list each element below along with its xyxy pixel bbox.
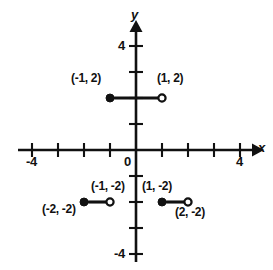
coordinate-plane-graph: x y -4 0 4 4 -4 (-1, 2) (1, 2) (-2, -2) …	[0, 0, 273, 270]
y-axis-label: y	[131, 8, 138, 21]
origin-label: 0	[124, 155, 131, 168]
plot-area	[0, 0, 273, 270]
segment-upper-closed-endpoint	[106, 94, 114, 102]
point-label-upper-right: (1, 2)	[157, 72, 183, 84]
y-tick-label-4: 4	[118, 39, 125, 52]
point-label-lower-right-inner: (1, -2)	[142, 180, 172, 192]
segment-lower-right-closed-endpoint	[158, 198, 166, 206]
x-tick-label--4: -4	[26, 155, 37, 168]
segment-lower-left-closed-endpoint	[80, 198, 88, 206]
segment-upper-open-endpoint	[158, 94, 165, 101]
point-label-upper-left: (-1, 2)	[71, 72, 101, 84]
point-label-lower-left-outer: (-2, -2)	[42, 203, 76, 215]
x-tick-label-4: 4	[236, 155, 243, 168]
point-label-lower-right-outer: (2, -2)	[175, 206, 205, 218]
point-label-lower-left-inner: (-1, -2)	[91, 180, 125, 192]
x-axis-label: x	[258, 141, 265, 154]
y-tick-label--4: -4	[114, 247, 125, 260]
segment-lower-left-open-endpoint	[106, 198, 113, 205]
